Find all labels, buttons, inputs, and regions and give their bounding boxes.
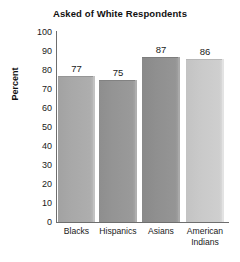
y-tick-100: 100	[26, 27, 52, 37]
bar-american-indians	[186, 59, 224, 222]
x-tick-hispanics-line1: Hispanics	[99, 226, 136, 236]
y-tick-40: 40	[26, 141, 52, 151]
x-tick-blacks-line1: Blacks	[64, 226, 89, 236]
x-tick-american-indians-line2: Indians	[177, 237, 233, 248]
y-tick-80: 80	[26, 65, 52, 75]
x-tick-asians-line1: Asians	[148, 226, 174, 236]
bar-value-blacks: 77	[58, 63, 95, 74]
x-axis-line	[56, 222, 229, 223]
y-tick-90: 90	[26, 46, 52, 56]
bar-value-asians: 87	[142, 44, 180, 55]
bar-value-hispanics: 75	[99, 67, 137, 78]
y-tick-60: 60	[26, 103, 52, 113]
bar-value-american-indians: 86	[186, 46, 224, 57]
y-tick-20: 20	[26, 179, 52, 189]
y-tick-70: 70	[26, 84, 52, 94]
y-tick-50: 50	[26, 122, 52, 132]
bar-asians	[142, 57, 180, 222]
x-tick-american-indians: American Indians	[177, 226, 233, 248]
bar-blacks	[58, 76, 95, 222]
bar-chart: Asked of White Respondents Percent 100 9…	[0, 0, 240, 262]
y-tick-10: 10	[26, 198, 52, 208]
bar-hispanics	[99, 80, 137, 223]
y-axis-label: Percent	[8, 56, 22, 112]
y-tick-30: 30	[26, 160, 52, 170]
plot-area	[57, 32, 229, 222]
y-axis-ticks: 100 90 80 70 60 50 40 30 20 10 0	[24, 0, 52, 262]
x-tick-american-indians-line1: American	[187, 226, 223, 236]
